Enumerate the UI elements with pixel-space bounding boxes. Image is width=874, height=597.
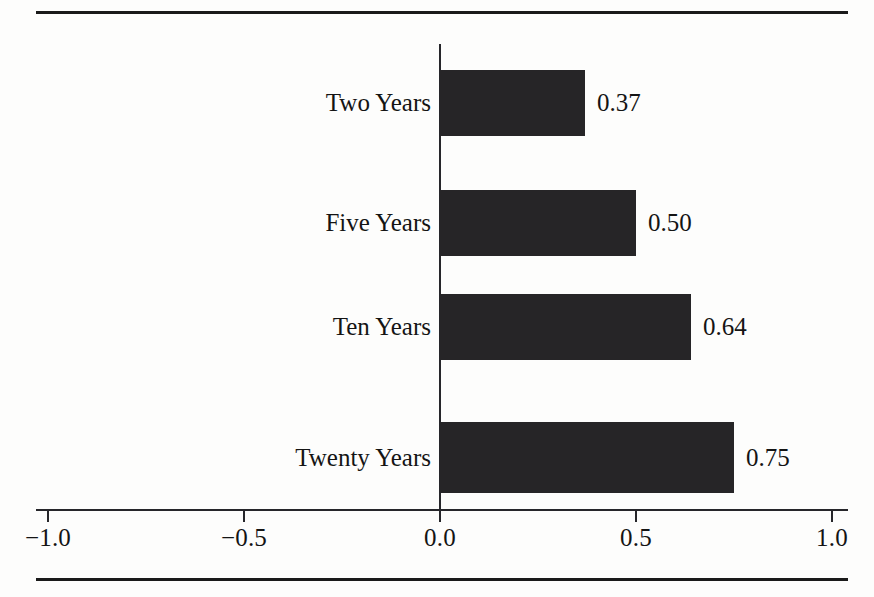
bar-value-label: 0.50	[648, 209, 692, 237]
x-axis-tick-label: 0.0	[424, 524, 456, 552]
x-axis-line	[36, 509, 848, 511]
chart-figure: −1.0−0.50.00.51.0Two Years0.37Five Years…	[0, 0, 874, 597]
x-axis-tick-label: −0.5	[221, 524, 267, 552]
x-axis-tick	[831, 511, 833, 522]
x-axis-tick	[47, 511, 49, 522]
category-label: Two Years	[326, 89, 431, 117]
plot-area: −1.0−0.50.00.51.0Two Years0.37Five Years…	[0, 0, 874, 597]
bar-value-label: 0.37	[597, 89, 641, 117]
x-axis-tick	[635, 511, 637, 522]
category-label: Ten Years	[333, 313, 431, 341]
x-axis-tick-label: −1.0	[25, 524, 71, 552]
x-axis-tick-label: 0.5	[620, 524, 652, 552]
bar	[440, 294, 691, 360]
category-label: Five Years	[325, 209, 431, 237]
x-axis-tick	[439, 511, 441, 522]
bar-value-label: 0.64	[703, 313, 747, 341]
bar	[440, 422, 734, 493]
bar	[440, 70, 585, 136]
bar-value-label: 0.75	[746, 444, 790, 472]
category-label: Twenty Years	[295, 444, 431, 472]
bar	[440, 190, 636, 256]
x-axis-tick	[243, 511, 245, 522]
x-axis-tick-label: 1.0	[816, 524, 848, 552]
